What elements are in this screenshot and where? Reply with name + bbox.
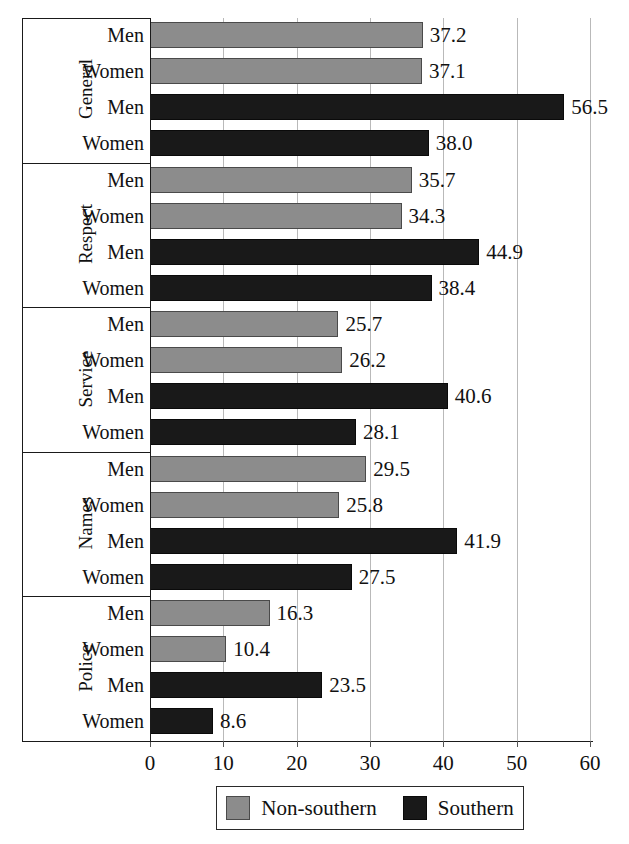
x-tick-label: 10 — [193, 750, 253, 776]
bar-value-label: 38.0 — [436, 130, 473, 156]
legend-item-southern[interactable]: Southern — [403, 796, 514, 820]
bar-service-men-non-southern[interactable] — [150, 311, 338, 337]
bar-value-label: 37.1 — [429, 58, 466, 84]
row-label-men: Men — [52, 386, 144, 406]
bar-police-women-southern[interactable] — [150, 708, 213, 734]
row-label-women: Women — [52, 567, 144, 587]
tick-20 — [297, 741, 298, 747]
bar-names-men-non-southern[interactable] — [150, 456, 366, 482]
row-label-women: Women — [52, 639, 144, 659]
row-label-men: Men — [52, 675, 144, 695]
bar-value-label: 8.6 — [220, 708, 246, 734]
value-axis-line — [22, 741, 593, 742]
row-label-women: Women — [52, 711, 144, 731]
group-separator — [22, 452, 150, 453]
bar-value-label: 37.2 — [430, 22, 467, 48]
row-label-men: Men — [52, 97, 144, 117]
bar-service-women-southern[interactable] — [150, 419, 356, 445]
plot-area: GeneralRespectServiceNamesPolice Men37.2… — [22, 18, 593, 742]
bar-names-women-non-southern[interactable] — [150, 492, 339, 518]
legend-swatch-non-southern — [226, 796, 250, 820]
bar-chart: GeneralRespectServiceNamesPolice Men37.2… — [0, 0, 629, 844]
row-label-women: Women — [52, 495, 144, 515]
bar-names-women-southern[interactable] — [150, 564, 352, 590]
tick-40 — [443, 741, 444, 747]
bar-value-label: 16.3 — [277, 600, 314, 626]
bar-value-label: 10.4 — [233, 636, 270, 662]
row-label-men: Men — [52, 170, 144, 190]
bar-value-label: 25.7 — [345, 311, 382, 337]
x-tick-label: 20 — [267, 750, 327, 776]
gridline-10 — [223, 18, 224, 742]
gridline-50 — [517, 18, 518, 742]
bar-general-men-southern[interactable] — [150, 94, 564, 120]
legend: Non-southernSouthern — [216, 786, 524, 830]
group-separator — [22, 596, 150, 597]
group-separator — [22, 163, 150, 164]
bar-respect-men-non-southern[interactable] — [150, 167, 412, 193]
group-separator — [22, 307, 150, 308]
row-label-women: Women — [52, 206, 144, 226]
row-label-men: Men — [52, 459, 144, 479]
x-tick-label: 50 — [487, 750, 547, 776]
row-label-women: Women — [52, 350, 144, 370]
legend-item-non-southern[interactable]: Non-southern — [226, 796, 376, 820]
x-tick-label: 30 — [340, 750, 400, 776]
legend-label-non-southern: Non-southern — [261, 796, 376, 820]
gridline-20 — [297, 18, 298, 742]
x-tick-label: 60 — [560, 750, 620, 776]
row-label-men: Men — [52, 531, 144, 551]
bar-value-label: 56.5 — [571, 94, 608, 120]
row-label-women: Women — [52, 133, 144, 153]
bar-general-women-southern[interactable] — [150, 130, 429, 156]
bar-value-label: 29.5 — [373, 456, 410, 482]
legend-swatch-southern — [403, 796, 427, 820]
bar-names-men-southern[interactable] — [150, 528, 457, 554]
bar-value-label: 34.3 — [409, 203, 446, 229]
bar-value-label: 28.1 — [363, 419, 400, 445]
x-tick-label: 40 — [413, 750, 473, 776]
bar-value-label: 25.8 — [346, 492, 383, 518]
gridline-40 — [443, 18, 444, 742]
row-label-women: Women — [52, 278, 144, 298]
bar-value-label: 35.7 — [419, 167, 456, 193]
bar-police-men-southern[interactable] — [150, 672, 322, 698]
row-label-men: Men — [52, 314, 144, 334]
bar-respect-women-non-southern[interactable] — [150, 203, 402, 229]
bar-value-label: 40.6 — [455, 383, 492, 409]
bar-general-women-non-southern[interactable] — [150, 58, 422, 84]
legend-label-southern: Southern — [438, 796, 514, 820]
bar-police-men-non-southern[interactable] — [150, 600, 270, 626]
gridline-30 — [370, 18, 371, 742]
row-label-women: Women — [52, 422, 144, 442]
bar-value-label: 26.2 — [349, 347, 386, 373]
gridline-60 — [590, 18, 591, 742]
bar-service-women-non-southern[interactable] — [150, 347, 342, 373]
bar-value-label: 38.4 — [439, 275, 476, 301]
bar-value-label: 27.5 — [359, 564, 396, 590]
bar-respect-men-southern[interactable] — [150, 239, 479, 265]
bar-value-label: 44.9 — [486, 239, 523, 265]
tick-50 — [517, 741, 518, 747]
gridline-0 — [150, 18, 151, 742]
row-label-men: Men — [52, 603, 144, 623]
row-label-men: Men — [52, 25, 144, 45]
tick-60 — [590, 741, 591, 747]
tick-30 — [370, 741, 371, 747]
category-axis-top-line — [22, 18, 150, 19]
bar-general-men-non-southern[interactable] — [150, 22, 423, 48]
row-label-men: Men — [52, 242, 144, 262]
bar-police-women-non-southern[interactable] — [150, 636, 226, 662]
bar-value-label: 41.9 — [464, 528, 501, 554]
bar-respect-women-southern[interactable] — [150, 275, 432, 301]
row-label-women: Women — [52, 61, 144, 81]
x-tick-label: 0 — [120, 750, 180, 776]
tick-10 — [223, 741, 224, 747]
bar-service-men-southern[interactable] — [150, 383, 448, 409]
bar-value-label: 23.5 — [329, 672, 366, 698]
